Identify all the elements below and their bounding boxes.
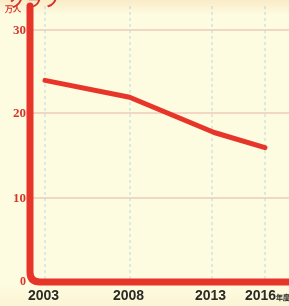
x-tick-label-2003: 2003 — [28, 288, 59, 303]
plot-area — [0, 0, 289, 306]
data-line-series-1 — [45, 80, 265, 147]
x-tick-2016-suffix: 年度 — [276, 294, 289, 301]
vertical-gridlines — [45, 6, 265, 282]
x-tick-2016-year: 2016 — [245, 287, 276, 303]
x-tick-label-2008: 2008 — [113, 288, 144, 303]
x-tick-label-2013: 2013 — [195, 288, 226, 303]
line-chart: グラフ 万人 30 20 10 0 2003 2008 2013 2016年度 — [0, 0, 289, 306]
y-axis-unit-label: 万人 — [5, 3, 21, 14]
x-tick-label-2016: 2016年度 — [245, 288, 289, 305]
y-tick-label-30: 30 — [0, 23, 26, 36]
y-tick-label-20: 20 — [0, 106, 26, 119]
y-tick-label-0: 0 — [0, 275, 26, 288]
y-tick-label-10: 10 — [0, 191, 26, 204]
horizontal-gridlines — [33, 30, 289, 198]
